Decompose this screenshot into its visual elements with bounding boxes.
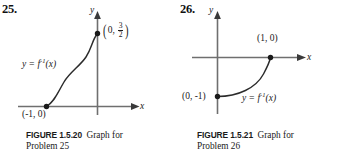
paren-open-25: ( — [103, 26, 107, 35]
fraction-denominator: 2 — [118, 31, 124, 39]
problem-26-block: 26. y x — [180, 0, 337, 164]
endpoint-dot-zero-three-halves — [95, 31, 100, 36]
caption-25-label: FIGURE — [26, 130, 57, 140]
problem-25-block: 25. y x — [0, 0, 168, 164]
curve-label-25-suffix: (x) — [46, 59, 57, 69]
fraction-three-halves: 3 2 — [118, 22, 124, 38]
x-axis-26 — [192, 54, 306, 61]
point-label-zero-minus-one: (0, -1) — [182, 91, 206, 101]
curve-label-25: y = f-1(x) — [22, 57, 56, 69]
point-label-one-zero: (1, 0) — [257, 33, 278, 43]
curve-25 — [47, 34, 98, 107]
point-label-25-x: 0, — [108, 25, 118, 35]
caption-26-number: 1.5.21 — [230, 130, 253, 140]
caption-25-line2: Problem 25 — [26, 141, 168, 153]
y-axis-label-25: y — [90, 5, 94, 15]
curve-label-26: y = f-1(x) — [242, 91, 276, 103]
y-axis-label-26: y — [209, 5, 213, 15]
caption-26-label: FIGURE — [197, 130, 228, 140]
fraction-numerator: 3 — [118, 22, 124, 30]
figure-26-graph — [180, 0, 337, 126]
figure-26-caption: FIGURE 1.5.21 Graph for Problem 26 — [197, 130, 337, 153]
caption-26-line2: Problem 26 — [197, 141, 337, 153]
y-axis-25 — [94, 11, 101, 115]
point-label-origin-three-halves: (0, 3 2 ) — [102, 22, 130, 38]
textbook-problem-pair: 25. y x — [0, 0, 337, 164]
caption-25-number: 1.5.20 — [59, 130, 82, 140]
endpoint-dot-one-zero — [268, 55, 273, 60]
caption-25-text: Graph for — [86, 130, 122, 140]
paren-close-25: ) — [125, 26, 129, 35]
curve-label-25-prefix: y = f — [22, 59, 40, 69]
caption-26-text: Graph for — [257, 130, 293, 140]
figure-25-caption: FIGURE 1.5.20 Graph for Problem 25 — [26, 130, 168, 153]
curve-label-26-prefix: y = f — [242, 93, 260, 103]
point-label-minus-one-zero: (-1, 0) — [22, 109, 46, 119]
curve-label-26-suffix: (x) — [266, 93, 277, 103]
endpoint-dot-zero-minus-one — [215, 94, 220, 99]
x-axis-label-25: x — [140, 101, 144, 111]
x-axis-label-26: x — [307, 52, 311, 62]
